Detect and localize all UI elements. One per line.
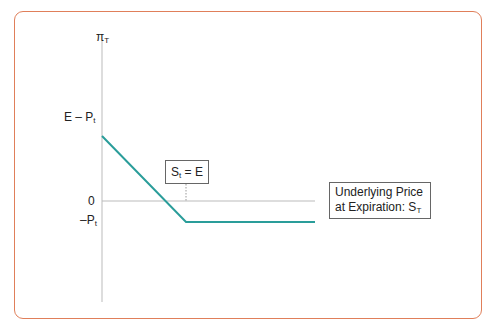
y-tick-zero: 0	[88, 194, 95, 208]
strike-label-box: St = E	[165, 160, 209, 184]
y-tick-upper: E – Pt	[64, 110, 96, 125]
x-axis-label-box: Underlying Priceat Expiration: ST	[329, 182, 431, 219]
y-axis-label: πT	[96, 30, 109, 45]
payoff-chart	[0, 0, 496, 332]
y-tick-lower: –Pt	[80, 213, 97, 228]
